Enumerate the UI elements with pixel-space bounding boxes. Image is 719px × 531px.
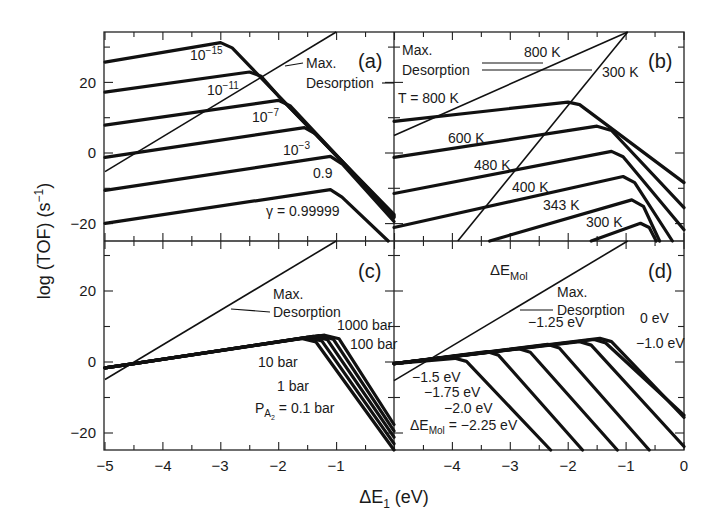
curve-label: 100 bar [350, 336, 398, 352]
x-tick-label: −1 [327, 457, 344, 474]
curve-label: ΔEMol = −2.25 eV [410, 417, 518, 436]
panel-label-b: (b) [648, 50, 672, 72]
curve-label: −2.0 eV [444, 400, 493, 416]
annotation-label: Max. [557, 284, 587, 300]
y-tick-label: −20 [71, 424, 96, 441]
curve-label: 0 eV [640, 310, 669, 326]
curve-label: 400 K [512, 179, 549, 195]
panel-label-a: (a) [358, 50, 382, 72]
curve-label: 10−15 [190, 45, 223, 63]
annotation-label: Desorption [402, 62, 470, 78]
curve-label: 480 K [474, 157, 511, 173]
x-tick-label: −4 [154, 457, 171, 474]
panel-a-curves [105, 32, 394, 241]
curve-label: 800 K [524, 44, 561, 60]
y-tick-label: 20 [79, 282, 96, 299]
y-tick-label: 20 [79, 74, 96, 91]
curve-label: −1.25 eV [528, 314, 585, 330]
curve-label: 10−7 [252, 107, 279, 125]
curve-label: 1 bar [277, 378, 309, 394]
x-axis-title: ΔE1 (eV) [359, 487, 429, 511]
annotation-label: Max. [402, 42, 432, 58]
x-tick-label: −3 [501, 457, 518, 474]
x-tick-label: −4 [443, 457, 460, 474]
panel-label-d: (d) [648, 260, 672, 282]
data-curve [105, 190, 388, 241]
curve-label: −1.5 eV [412, 369, 461, 385]
data-curve [105, 72, 394, 216]
curve-label: −1.75 eV [424, 384, 481, 400]
curve-label: 10 bar [258, 354, 298, 370]
y-tick-label: 0 [88, 353, 96, 370]
curve-label: 10−11 [207, 80, 239, 98]
x-tick-label: −5 [96, 457, 113, 474]
y-axis-title: log (TOF) (s−1) [32, 183, 54, 299]
x-tick-labels: −5 −4 −3 −2 −1 −4 −3 −2 −1 0 [96, 457, 688, 474]
annotation-label: Max. [273, 286, 303, 302]
x-tick-label: −1 [617, 457, 634, 474]
curve-label: 0.9 [313, 165, 333, 181]
data-curve [105, 156, 394, 221]
curve-label: T = 800 K [398, 90, 460, 106]
legend-title: ΔEMol [490, 261, 528, 282]
data-curve [105, 100, 394, 216]
y-tick-labels: 20 0 −20 20 0 −20 [71, 74, 96, 441]
annotation-arrow [285, 63, 303, 66]
curve-label: 600 K [448, 130, 485, 146]
x-tick-label: −3 [211, 457, 228, 474]
annotation-label: Max. [306, 55, 336, 71]
curve-label: PA2 = 0.1 bar [255, 400, 335, 421]
x-tick-label: −2 [269, 457, 286, 474]
figure: 20 0 −20 20 0 −20 −5 −4 −3 −2 −1 −4 −3 −… [0, 0, 719, 531]
panel-label-c: (c) [358, 260, 381, 282]
annotation-arrow [231, 309, 270, 312]
panel-b-labels: Max. Desorption 800 K 300 K T = 800 K 60… [398, 42, 639, 230]
annotation-label: Desorption [273, 304, 341, 320]
y-tick-label: −20 [71, 215, 96, 232]
data-curve [105, 43, 394, 215]
curve-label: γ = 0.99999 [266, 203, 340, 219]
x-tick-label: −2 [559, 457, 576, 474]
curve-label: 1000 bar [337, 317, 393, 333]
x-tick-label: 0 [680, 457, 688, 474]
curve-label: 343 K [543, 197, 580, 213]
annotation-label: Desorption [306, 75, 374, 91]
curve-label: 300 K [586, 214, 623, 230]
y-tick-label: 0 [88, 144, 96, 161]
curve-label: 300 K [602, 64, 639, 80]
curve-label: −1.0 eV [636, 335, 685, 351]
curve-label: 10−3 [283, 140, 310, 158]
